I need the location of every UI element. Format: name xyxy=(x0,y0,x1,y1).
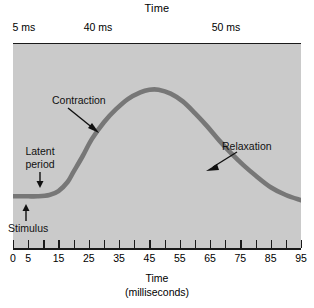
annotation-contraction-label: Contraction xyxy=(52,94,106,107)
bottom-axis-tick-label: 65 xyxy=(199,252,221,264)
bottom-axis-tick-label: 45 xyxy=(138,252,160,264)
bottom-axis-tick xyxy=(43,240,44,248)
annotation-latent-period-line1: Latent xyxy=(25,145,54,157)
bottom-axis-line xyxy=(13,248,301,250)
annotation-latent-period-label: Latent period xyxy=(16,145,64,170)
bottom-axis-tick-label: 15 xyxy=(47,252,69,264)
bottom-axis-title: Time xyxy=(0,272,314,284)
bottom-axis-tick xyxy=(165,240,166,248)
bottom-axis-tick xyxy=(286,240,287,248)
bottom-axis-units: (milliseconds) xyxy=(0,286,314,298)
bottom-axis-tick xyxy=(89,240,90,248)
bottom-axis-tick xyxy=(301,240,302,248)
bottom-axis-tick xyxy=(271,240,272,248)
bottom-axis-tick xyxy=(240,240,241,248)
bottom-axis-tick xyxy=(74,240,75,248)
bottom-axis-tick-label: 5 xyxy=(17,252,39,264)
bottom-axis-tick xyxy=(28,240,29,248)
bottom-axis-tick-label: 95 xyxy=(290,252,312,264)
bottom-axis-tick-label: 35 xyxy=(108,252,130,264)
bottom-axis-tick-label: 55 xyxy=(169,252,191,264)
bottom-axis-tick xyxy=(225,240,226,248)
annotation-latent-period-line2: period xyxy=(25,158,54,170)
bottom-axis-tick xyxy=(104,240,105,248)
bottom-axis-tick xyxy=(256,240,257,248)
bottom-axis-tick xyxy=(210,240,211,248)
bottom-axis-tick xyxy=(119,240,120,248)
annotation-stimulus-label: Stimulus xyxy=(8,222,48,235)
bottom-axis-tick xyxy=(13,240,14,248)
bottom-axis-tick xyxy=(58,240,59,248)
top-axis-segment-label-5ms: 5 ms xyxy=(6,21,42,33)
bottom-axis-tick-label: 75 xyxy=(229,252,251,264)
top-axis-segment-label-50ms: 50 ms xyxy=(198,21,254,33)
top-axis-segment-label-40ms: 40 ms xyxy=(70,21,126,33)
bottom-axis-tick-label: 25 xyxy=(78,252,100,264)
annotation-relaxation-label: Relaxation xyxy=(222,140,272,153)
top-axis-title: Time xyxy=(0,2,314,14)
muscle-twitch-chart: Time 5 ms 40 ms 50 ms Contraction Relaxa… xyxy=(0,0,314,308)
bottom-axis-tick-label: 85 xyxy=(260,252,282,264)
bottom-axis-tick xyxy=(134,240,135,248)
bottom-axis-tick xyxy=(195,240,196,248)
bottom-axis-tick xyxy=(180,240,181,248)
bottom-axis-tick xyxy=(149,240,150,248)
